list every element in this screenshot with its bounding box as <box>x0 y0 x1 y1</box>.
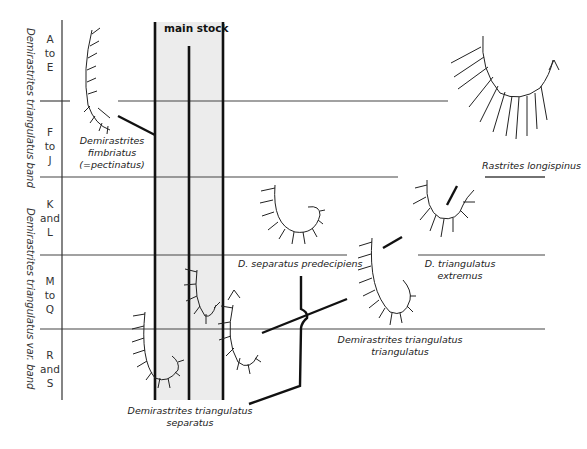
taxon-label-longispinus: Rastrites longispinus <box>482 160 581 172</box>
taxon-label-fimbriatus: Demirastrites fimbriatus (=pectinatus) <box>72 135 152 171</box>
graptolite-extremus-icon <box>413 180 475 237</box>
zone-r-s: R and S <box>36 348 64 390</box>
graptolite-triangulatus-icon <box>358 238 416 325</box>
zone-m-q: M to Q <box>36 274 64 316</box>
main-stock-label: main stock <box>164 22 228 34</box>
band-label-triangulatus-var: Demirastrites triangulatus var. band <box>25 208 36 389</box>
graptolite-predecipiens-icon <box>260 185 325 244</box>
graptolite-longispinus-icon <box>451 36 559 139</box>
zone-f-j: F to J <box>36 125 64 167</box>
taxon-label-triangulatus: Demirastrites triangulatus triangulatus <box>325 334 475 358</box>
phylogeny-diagram <box>0 0 587 449</box>
taxon-label-extremus: D. triangulatus extremus <box>418 258 502 282</box>
taxon-label-separatus: Demirastrites triangulatus separatus <box>115 405 265 429</box>
zone-a-e: A to E <box>36 32 64 74</box>
taxon-label-predecipiens: D. separatus predecipiens <box>238 258 362 270</box>
zone-k-l: K and L <box>36 197 64 239</box>
band-label-triangulatus: Demirastrites triangulatus band <box>25 28 36 188</box>
graptolite-fimbriatus-icon <box>84 28 110 134</box>
